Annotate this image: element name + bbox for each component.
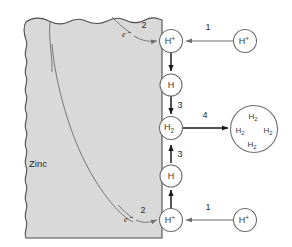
corrosion-diagram: Zinc e⁻ 2 e⁻ 2 1 3 3 [0,0,292,247]
step-label-1-top: 1 [205,22,210,32]
node-h-plus-top-solution: H+ [234,30,257,53]
hydrogen-gas-bubble: H2 H2 H2 H2 [231,106,278,153]
zinc-label: Zinc [29,158,47,169]
node-h-plus-top-surface: H+ [160,30,183,53]
step-label-2-top: 2 [141,20,146,30]
node-h-plus-bottom-surface: H+ [160,209,183,232]
step-label-3-upper: 3 [177,100,182,110]
adsorption-arrow-bottom: 1 [186,202,233,220]
step-label-2-bottom: 2 [140,205,145,215]
adsorption-arrow-top: 1 [186,22,233,41]
bubble-formation-arrow: 4 [183,110,228,128]
step-label-1-bottom: 1 [205,202,210,212]
diagram-canvas: Zinc e⁻ 2 e⁻ 2 1 3 3 [0,0,292,247]
node-h2-center: H2 [160,117,183,140]
node-label: H [168,171,175,181]
step-label-4: 4 [202,110,207,120]
node-h-atom-bottom: H [160,165,182,187]
node-h-atom-top: H [160,74,182,96]
node-h-plus-bottom-solution: H+ [234,209,257,232]
node-label: H [168,80,175,90]
step-label-3-lower: 3 [177,149,182,159]
